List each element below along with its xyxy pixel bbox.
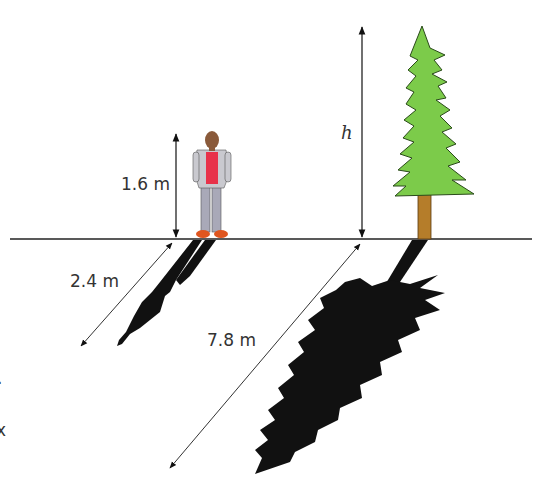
shadow-diagram: 1.6 m h 2.4 m 7.8 m . x xyxy=(0,0,553,495)
tree xyxy=(393,26,474,239)
person-shadow-label: 2.4 m xyxy=(70,271,119,291)
cropped-text-fragment: . xyxy=(0,368,2,388)
diagram-canvas xyxy=(0,0,553,495)
tree-shadow xyxy=(255,240,445,474)
person xyxy=(193,131,231,238)
person-shadow xyxy=(117,240,216,346)
person-height-label: 1.6 m xyxy=(121,174,170,194)
tree-shadow-label: 7.8 m xyxy=(207,330,256,350)
tree-height-label: h xyxy=(341,122,353,143)
cropped-text-fragment: x xyxy=(0,420,6,440)
